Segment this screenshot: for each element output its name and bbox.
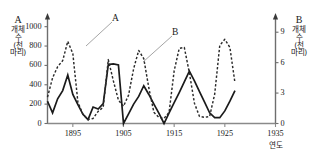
- x-tick-label: 1935: [259, 129, 293, 138]
- series-a-curve: [48, 64, 235, 124]
- series-a-label: A: [112, 13, 119, 23]
- x-tick-label: 1915: [157, 129, 191, 138]
- series-b-label: B: [172, 27, 178, 37]
- series-a-leader-line: [86, 22, 112, 46]
- left-tick-label: 400: [16, 80, 42, 89]
- x-tick-label: 1905: [107, 129, 141, 138]
- x-axis-title: 연도: [258, 139, 294, 150]
- left-axis-unit-line-4: 마리): [1, 49, 35, 57]
- series-b-leader-line: [143, 36, 172, 62]
- left-tick-label: 800: [16, 41, 42, 50]
- left-tick-label: 200: [16, 99, 42, 108]
- left-tick-label: 0: [16, 119, 42, 128]
- right-axis-arrow: [273, 13, 278, 20]
- right-tick-label: 3: [281, 88, 297, 97]
- right-axis-unit-line-4: 마리): [282, 49, 309, 57]
- right-axis-series-letter: B: [282, 15, 309, 25]
- left-axis-arrow: [45, 13, 50, 20]
- x-tick-label: 1895: [56, 129, 90, 138]
- right-tick-label: 0: [281, 119, 297, 128]
- right-tick-label: 6: [281, 58, 297, 67]
- left-tick-label: 1000: [16, 22, 42, 31]
- left-tick-label: 600: [16, 60, 42, 69]
- population-chart-figure: A 개체 수 (천 마리) B 개체 수 (천 마리) 020040060080…: [0, 0, 309, 155]
- right-tick-label: 9: [281, 27, 297, 36]
- x-tick-label: 1925: [208, 129, 242, 138]
